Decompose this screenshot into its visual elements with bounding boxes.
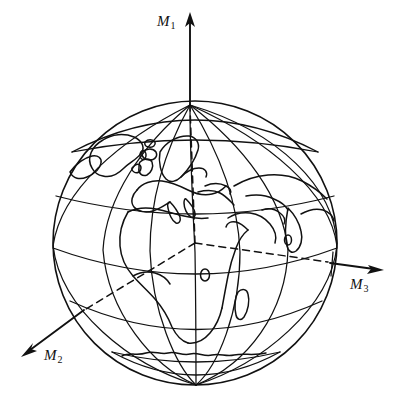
coastlines: [70, 135, 334, 356]
axis-label-m2: M2: [44, 348, 62, 363]
axis-label-m3-subscript: 3: [364, 283, 369, 294]
axis-label-m1-letter: M: [157, 13, 170, 29]
axis-label-m2-subscript: 2: [58, 354, 63, 365]
axis-label-m1-subscript: 1: [171, 20, 176, 31]
axis-label-m2-letter: M: [44, 347, 57, 363]
axis-label-m3: M3: [350, 277, 368, 292]
axis-m3: [195, 243, 384, 276]
globe-figure: M1 M2 M3: [0, 0, 402, 406]
axis-label-m3-letter: M: [350, 276, 363, 292]
axis-label-m1: M1: [157, 14, 175, 29]
globe-drawing: [0, 0, 402, 406]
